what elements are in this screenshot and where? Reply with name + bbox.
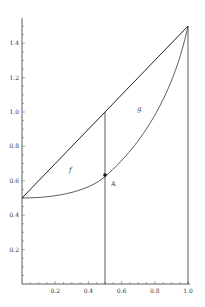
y-tick-label: 0.2 bbox=[9, 246, 19, 253]
y-axis-ticks bbox=[22, 26, 25, 275]
x-tick-label: 0.6 bbox=[117, 287, 127, 294]
x-tick-label: 1.0 bbox=[183, 287, 193, 294]
diagram-canvas: 0.2 0.4 0.6 0.8 1.0 1.2 1.4 0.2 0.4 0.6 … bbox=[0, 0, 205, 307]
label-g: g bbox=[137, 105, 142, 113]
y-tick-label: 0.4 bbox=[9, 211, 19, 218]
y-tick-label: 0.6 bbox=[9, 177, 19, 184]
y-tick-label: 0.8 bbox=[9, 142, 19, 149]
x-axis-ticks bbox=[30, 281, 188, 284]
y-tick-label: 1.2 bbox=[9, 74, 19, 81]
label-a: A bbox=[110, 180, 116, 188]
x-tick-label: 0.4 bbox=[84, 287, 94, 294]
label-f: f bbox=[68, 166, 73, 174]
y-tick-label: 1.0 bbox=[9, 108, 19, 115]
point-a-marker bbox=[103, 173, 107, 177]
y-tick-label: 1.4 bbox=[9, 39, 19, 46]
x-tick-label: 0.8 bbox=[150, 287, 160, 294]
x-tick-label: 0.2 bbox=[50, 287, 60, 294]
